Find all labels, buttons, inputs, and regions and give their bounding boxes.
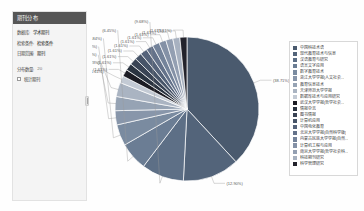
legend-swatch-icon xyxy=(293,131,297,135)
pie-leader-line xyxy=(123,51,138,57)
legend-swatch-icon xyxy=(293,83,297,87)
legend-swatch-icon xyxy=(293,76,297,80)
pie-leader-line xyxy=(109,69,126,73)
pie-leader-line xyxy=(150,35,163,42)
handle-grip-icon xyxy=(87,98,88,104)
pie-slice-label: (6.45%) xyxy=(102,28,117,33)
legend-swatch-icon xyxy=(293,119,297,123)
pie-slice-label: (9.68%) xyxy=(134,19,149,24)
control-panel: 期刊分布 数据库: 学术期刊 检索条件: 检索条件 日期范围: 期刊 分布数量:… xyxy=(12,11,87,201)
field-value-count[interactable]: 20 xyxy=(37,66,42,71)
pie-leader-line xyxy=(143,38,156,45)
legend-swatch-icon xyxy=(293,101,297,105)
legend-swatch-icon xyxy=(293,70,297,74)
chart-legend: 中国科技术语现代教育技术与信息汉语教育与研究语言文字应用数字教育技术浙江大学学报… xyxy=(289,41,358,176)
pie-slice-label: (1.61%) xyxy=(158,28,173,33)
pie-slice-label: (12.90%) xyxy=(227,181,244,186)
pie-leader-line xyxy=(158,32,170,40)
panel-title: 期刊分布 xyxy=(13,12,86,24)
pie-slice-label: (4.84%) xyxy=(92,36,103,41)
legend-swatch-icon xyxy=(293,125,297,129)
pie-leader-line xyxy=(113,63,129,68)
legend-swatch-icon xyxy=(293,52,297,56)
pie-slice-label: (1.61%) xyxy=(97,60,112,65)
legend-swatch-icon xyxy=(293,156,297,160)
pie-leader-line xyxy=(211,176,225,183)
panel-form: 数据库: 学术期刊 检索条件: 检索条件 日期范围: 期刊 分布数量: 20 统… xyxy=(13,24,86,82)
pie-slice-label: (1.61%) xyxy=(93,67,108,72)
field-value-daterange[interactable]: 期刊 xyxy=(37,50,45,56)
panel-collapse-handle[interactable] xyxy=(85,96,89,106)
field-row-count: 分布数量: 20 xyxy=(17,66,82,72)
legend-swatch-icon xyxy=(293,64,297,68)
pie-slice-label: (1.61%) xyxy=(108,48,123,53)
legend-swatch-icon xyxy=(293,143,297,147)
legend-swatch-icon xyxy=(293,113,297,117)
pie-slice-label: (3.23%) xyxy=(92,44,98,49)
field-row-daterange: 日期范围: 期刊 xyxy=(17,50,82,56)
legend-item[interactable]: 科学管理研究 xyxy=(293,161,355,167)
pie-slice-label: (3.23%) xyxy=(92,52,97,57)
legend-swatch-icon xyxy=(293,162,297,166)
checkbox-icon[interactable] xyxy=(17,77,21,81)
pie-slice-label: (1.61%) xyxy=(102,54,117,59)
pie-leader-line xyxy=(253,80,271,83)
legend-swatch-icon xyxy=(293,137,297,141)
field-value-database[interactable]: 学术期刊 xyxy=(33,29,49,35)
legend-swatch-icon xyxy=(293,150,297,154)
field-value-criteria[interactable]: 检索条件 xyxy=(37,40,53,46)
pie-chart: (38.71%)(12.90%)(9.68%)(6.45%)(4.84%)(3.… xyxy=(92,4,292,207)
pie-leader-line xyxy=(173,30,183,38)
pie-slice-label: (38.71%) xyxy=(273,78,290,83)
pie-chart-svg: (38.71%)(12.90%)(9.68%)(6.45%)(4.84%)(3.… xyxy=(92,4,292,207)
legend-item-label: 科学管理研究 xyxy=(300,161,324,167)
legend-swatch-icon xyxy=(293,46,297,50)
pie-slice-label: (1.61%) xyxy=(114,43,129,48)
pie-leader-line xyxy=(136,42,150,49)
field-label-database: 数据库: xyxy=(17,29,30,35)
field-label-daterange: 日期范围: xyxy=(17,50,34,56)
field-row-criteria: 检索条件: 检索条件 xyxy=(17,40,82,46)
legend-swatch-icon xyxy=(293,107,297,111)
field-label-criteria: 检索条件: xyxy=(17,40,34,46)
checkbox-label: 统计期刊 xyxy=(24,76,40,82)
field-label-count: 分布数量: xyxy=(17,66,34,72)
legend-swatch-icon xyxy=(293,95,297,99)
legend-swatch-icon xyxy=(293,89,297,93)
field-row-database: 数据库: 学术期刊 xyxy=(17,29,82,35)
screenshot-root: 期刊分布 数据库: 学术期刊 检索条件: 检索条件 日期范围: 期刊 分布数量:… xyxy=(0,0,364,211)
checkbox-row-statistics[interactable]: 统计期刊 xyxy=(17,76,82,82)
legend-swatch-icon xyxy=(293,58,297,62)
